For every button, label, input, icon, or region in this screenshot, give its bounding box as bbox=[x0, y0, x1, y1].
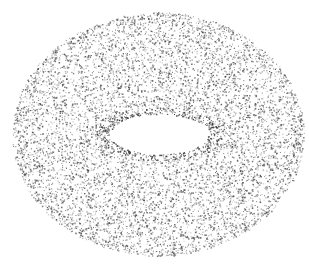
torus-point-cloud bbox=[0, 0, 309, 267]
torus-figure bbox=[0, 0, 309, 267]
